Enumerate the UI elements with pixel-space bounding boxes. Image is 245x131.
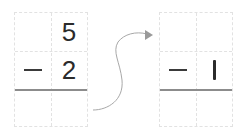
minus-icon [169,69,187,71]
right-subtraction-grid [159,12,233,127]
top-digit [196,13,232,51]
result-cell-tens [160,91,196,129]
minus-sign [160,51,196,89]
result-cell-ones [196,91,232,129]
digit-one-stroke [213,60,216,80]
subtrahend-digit [196,51,232,89]
